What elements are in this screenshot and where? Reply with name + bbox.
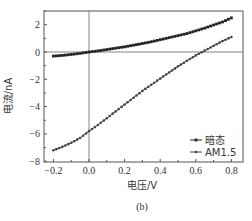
square-marker <box>224 19 227 22</box>
y-tick-label: 2 <box>35 19 40 30</box>
circle-marker <box>85 132 88 135</box>
circle-marker <box>156 79 159 82</box>
x-tick-label: −0.2 <box>44 165 62 176</box>
square-marker <box>91 50 94 53</box>
y-axis-title: 电流/nA <box>2 78 14 115</box>
square-marker <box>64 54 67 57</box>
circle-marker <box>180 63 183 66</box>
square-marker <box>126 45 129 48</box>
circle-marker <box>162 75 165 78</box>
square-marker <box>209 25 212 28</box>
y-tick-label: −4 <box>29 101 40 112</box>
circle-marker <box>212 45 215 48</box>
circle-marker <box>129 99 132 102</box>
square-marker <box>171 36 174 39</box>
square-marker <box>70 53 73 56</box>
square-marker <box>76 52 79 55</box>
circle-marker <box>197 53 200 56</box>
square-marker <box>132 44 135 47</box>
circle-marker <box>106 117 109 120</box>
figure-caption: (b) <box>136 201 148 213</box>
square-marker <box>174 35 177 38</box>
square-marker <box>114 47 117 50</box>
square-marker <box>73 53 76 56</box>
square-marker <box>221 21 224 24</box>
iv-curve-chart: −0.20.00.20.40.60.8 −8−6−4−202 暗态AM1.5 电… <box>0 0 252 221</box>
circle-marker <box>97 124 100 127</box>
circle-marker <box>117 108 120 111</box>
circle-marker <box>114 110 117 113</box>
circle-marker <box>218 41 221 44</box>
x-tick-label: 0.8 <box>225 165 238 176</box>
square-marker <box>227 18 230 21</box>
circle-marker <box>174 67 177 70</box>
circle-marker <box>195 54 198 57</box>
square-marker <box>129 44 132 47</box>
square-marker <box>162 38 165 41</box>
circle-marker <box>100 121 103 124</box>
circle-marker <box>88 130 91 133</box>
circle-marker <box>186 60 189 63</box>
square-marker <box>194 29 197 32</box>
square-marker <box>61 54 64 57</box>
circle-marker <box>138 92 141 95</box>
square-marker <box>147 41 150 44</box>
circle-marker <box>150 83 153 86</box>
square-marker <box>156 39 159 42</box>
circle-marker <box>165 73 168 76</box>
square-marker <box>99 49 102 52</box>
circle-marker <box>192 56 195 59</box>
circle-marker <box>55 148 58 151</box>
circle-marker <box>67 143 70 146</box>
circle-marker <box>58 147 61 150</box>
legend-label: 暗态 <box>205 134 225 146</box>
y-tick-label: −8 <box>29 156 40 167</box>
square-marker <box>215 23 218 26</box>
circle-marker <box>141 90 144 93</box>
square-marker <box>203 27 206 30</box>
square-marker <box>191 30 194 33</box>
circle-marker <box>76 138 79 141</box>
square-marker <box>52 55 55 58</box>
x-tick-label: 0.0 <box>83 165 96 176</box>
square-marker <box>108 48 111 51</box>
square-marker <box>123 45 126 48</box>
circle-marker <box>147 86 150 89</box>
square-marker <box>88 51 91 54</box>
circle-marker <box>73 140 76 143</box>
circle-marker <box>144 88 147 91</box>
circle-marker <box>126 101 129 104</box>
circle-marker <box>200 51 203 54</box>
square-marker <box>111 47 114 50</box>
circle-marker <box>120 106 123 109</box>
circle-marker <box>177 65 180 68</box>
circle-marker <box>203 49 206 52</box>
x-tick-label: 0.2 <box>118 165 131 176</box>
square-marker <box>141 42 144 45</box>
square-marker <box>150 40 153 43</box>
square-marker <box>168 36 171 39</box>
circle-marker <box>183 61 186 64</box>
legend: 暗态AM1.5 <box>190 134 236 158</box>
square-marker <box>117 46 120 49</box>
square-marker <box>85 51 88 54</box>
circle-marker <box>224 38 227 41</box>
square-marker <box>200 28 203 31</box>
square-marker <box>102 49 105 52</box>
legend-item-am15: AM1.5 <box>190 147 236 158</box>
square-marker <box>97 50 100 53</box>
square-marker-icon <box>195 139 198 142</box>
circle-marker <box>171 69 174 72</box>
square-marker <box>159 38 162 41</box>
square-marker <box>153 40 156 43</box>
square-marker <box>183 33 186 36</box>
square-marker <box>165 37 168 40</box>
square-marker <box>79 52 82 55</box>
x-tick-label: 0.4 <box>154 165 167 176</box>
circle-marker <box>209 46 212 49</box>
square-marker <box>188 31 191 34</box>
square-marker <box>138 43 141 46</box>
y-tick-label: 0 <box>35 47 40 58</box>
x-tick-label: 0.6 <box>190 165 203 176</box>
circle-marker <box>52 149 55 152</box>
